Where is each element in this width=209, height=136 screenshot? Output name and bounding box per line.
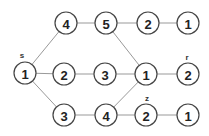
svg-text:5: 5 — [102, 17, 109, 32]
node-m1: 2 — [53, 63, 75, 85]
svg-text:4: 4 — [102, 109, 110, 124]
svg-text:2: 2 — [142, 109, 149, 124]
svg-text:3: 3 — [101, 68, 108, 83]
node-t4: 1 — [177, 12, 199, 34]
svg-text:2: 2 — [144, 17, 151, 32]
node-r: 2 — [177, 63, 199, 85]
graph-diagram: 1 4 5 2 1 2 3 1 2 3 4 2 1 s r z — [0, 0, 209, 136]
svg-text:1: 1 — [142, 68, 149, 83]
svg-text:1: 1 — [184, 109, 191, 124]
node-b2: 4 — [95, 104, 117, 126]
svg-text:4: 4 — [62, 17, 70, 32]
node-t2: 5 — [95, 12, 117, 34]
node-s: 1 — [14, 62, 36, 84]
svg-text:2: 2 — [60, 68, 67, 83]
svg-text:2: 2 — [184, 68, 191, 83]
node-b1: 3 — [53, 104, 75, 126]
node-z: 2 — [135, 104, 157, 126]
svg-text:3: 3 — [60, 109, 67, 124]
label-r: r — [185, 53, 188, 62]
node-b4: 1 — [177, 104, 199, 126]
svg-text:1: 1 — [21, 67, 28, 82]
node-m2: 3 — [94, 63, 116, 85]
node-m3: 1 — [135, 63, 157, 85]
label-z: z — [145, 94, 149, 103]
label-s: s — [20, 51, 25, 60]
svg-text:1: 1 — [184, 17, 191, 32]
node-t3: 2 — [137, 12, 159, 34]
node-t1: 4 — [55, 12, 77, 34]
